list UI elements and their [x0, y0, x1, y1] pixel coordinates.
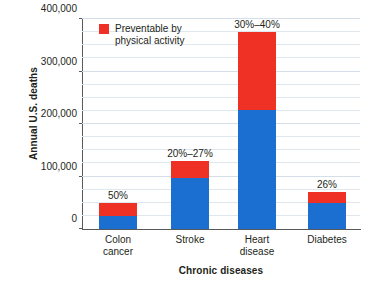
- gridline-minor: [82, 162, 360, 163]
- y-tick-label: 200,000: [7, 109, 77, 119]
- x-axis-title: Chronic diseases: [82, 265, 360, 276]
- y-tick-label: 0: [7, 214, 77, 224]
- bar-heart-disease[interactable]: 30%–40%: [238, 32, 276, 229]
- bar-segment-not-preventable: [171, 178, 209, 229]
- bar-colon-cancer[interactable]: 50%: [99, 203, 137, 229]
- gridline-minor: [82, 110, 360, 111]
- bar-segment-preventable: [99, 203, 137, 216]
- bar-segment-preventable: [171, 161, 209, 178]
- y-tick-mark: [79, 123, 82, 124]
- bar-data-label: 20%–27%: [167, 148, 213, 159]
- bar-segment-preventable: [308, 192, 346, 203]
- gridline-major: [82, 176, 360, 177]
- gridline-minor: [82, 136, 360, 137]
- gridline-major: [82, 123, 360, 124]
- y-tick-label: 400,000: [7, 4, 77, 14]
- chart-legend: Preventable by physical activity: [99, 23, 193, 46]
- bar-data-label: 26%: [317, 179, 337, 190]
- gridline-major: [82, 71, 360, 72]
- bar-segment-preventable: [238, 32, 276, 110]
- bar-data-label: 50%: [108, 190, 128, 201]
- gridline-minor: [82, 84, 360, 85]
- gridline-major: [82, 18, 360, 19]
- y-tick-mark: [79, 228, 82, 229]
- bar-segment-not-preventable: [99, 216, 137, 229]
- y-tick-label: 100,000: [7, 162, 77, 172]
- y-tick-mark: [79, 176, 82, 177]
- legend-label-preventable: Preventable by physical activity: [115, 23, 193, 46]
- y-tick-label: 300,000: [7, 57, 77, 67]
- bar-data-label: 30%–40%: [234, 19, 280, 30]
- gridline-minor: [82, 97, 360, 98]
- x-tick-label: Diabetes: [282, 234, 372, 246]
- x-axis-line: [82, 229, 361, 230]
- bar-diabetes[interactable]: 26%: [308, 192, 346, 229]
- chart-figure: Annual U.S. deaths Chronic diseases 0100…: [0, 0, 374, 287]
- gridline-minor: [82, 57, 360, 58]
- bar-segment-not-preventable: [308, 203, 346, 229]
- bar-stroke[interactable]: 20%–27%: [171, 161, 209, 229]
- legend-swatch-preventable: [99, 24, 109, 34]
- plot-area: 0100,000200,000300,000400,00050%20%–27%3…: [82, 19, 360, 229]
- bar-segment-not-preventable: [238, 110, 276, 229]
- y-tick-mark: [79, 18, 82, 19]
- y-tick-mark: [79, 71, 82, 72]
- gridline-minor: [82, 149, 360, 150]
